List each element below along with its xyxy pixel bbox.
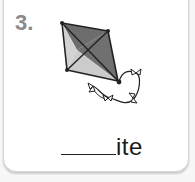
answer-blank[interactable]: [61, 136, 116, 155]
fill-in-word: ite: [61, 133, 143, 161]
word-suffix: ite: [116, 133, 143, 160]
